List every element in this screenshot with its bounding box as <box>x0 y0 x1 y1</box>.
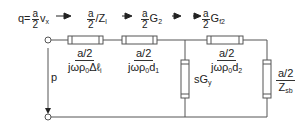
r1-den: jωρ0Δℓi <box>68 61 102 74</box>
g2-suffix: G <box>150 12 159 24</box>
r3-den-main: jωρ <box>211 61 228 73</box>
gf2-suffix: G <box>211 12 220 24</box>
r3-den: jωρ0d2 <box>211 61 242 74</box>
resistor-sgy <box>181 60 189 98</box>
label-sgy: sGy <box>194 74 212 86</box>
gf2-frac-den: 2 <box>203 20 209 30</box>
flow-label-z1: a2/Zl <box>86 9 107 30</box>
flow-label-g2: a2G2 <box>140 9 162 30</box>
q-fraction: a2 <box>32 9 40 30</box>
zsb-num: a/2 <box>276 68 295 81</box>
r2-den-tail-sub: 1 <box>155 67 159 74</box>
label-r1: a/2 jωρ0Δℓi <box>68 48 102 74</box>
r1-den-tail-sub: i <box>100 67 102 74</box>
r1-den-main: jωρ <box>68 61 85 73</box>
r3-num: a/2 <box>217 48 236 61</box>
g2-fraction: a2 <box>141 9 149 30</box>
q-prefix: q= <box>18 12 31 24</box>
z1-fraction: a2 <box>87 9 95 30</box>
flow-arrow-4-icon <box>194 13 201 19</box>
zsb-den: Zsb <box>279 81 293 94</box>
flow-arrow-3-icon <box>174 13 181 19</box>
sgy-label: sG <box>194 73 208 85</box>
flow-label-q: q=a2vx <box>18 9 49 30</box>
label-r2: a/2 jωρ0d1 <box>128 48 159 74</box>
z1-frac-den: 2 <box>88 20 94 30</box>
resistor-r1 <box>68 36 103 44</box>
g2-frac-den: 2 <box>142 20 148 30</box>
flow-arrow-1-icon <box>64 13 71 19</box>
gf2-fraction: a2 <box>202 9 210 30</box>
resistor-zsb <box>263 60 271 98</box>
resistor-r2 <box>122 36 157 44</box>
g2-suffix-sub: 2 <box>158 18 162 25</box>
label-r3: a/2 jωρ0d2 <box>211 48 242 74</box>
r2-den: jωρ0d1 <box>128 61 159 74</box>
terminal-top <box>45 37 51 43</box>
zsb-den-sub: sb <box>285 87 292 94</box>
port-arrow-icon <box>45 108 51 114</box>
q-suffix-sub: x <box>46 18 50 25</box>
r3-den-tail-sub: 2 <box>238 67 242 74</box>
flow-arrow-2-icon <box>125 13 132 19</box>
r1-den-tail: Δℓ <box>89 61 100 73</box>
r2-den-main: jωρ <box>128 61 145 73</box>
terminal-bottom <box>45 114 51 120</box>
r2-num: a/2 <box>134 48 153 61</box>
label-zsb: a/2 Zsb <box>276 68 295 94</box>
q-frac-den: 2 <box>33 20 39 30</box>
resistor-r3 <box>207 36 243 44</box>
gf2-suffix-sub: f2 <box>219 18 225 25</box>
sgy-label-sub: y <box>208 79 212 86</box>
r1-num: a/2 <box>75 48 94 61</box>
flow-label-gf2: a2Gf2 <box>201 9 225 30</box>
z1-suffix-sub: l <box>105 18 107 25</box>
z1-suffix: /Z <box>96 12 106 24</box>
port-label-p: p <box>51 72 57 83</box>
